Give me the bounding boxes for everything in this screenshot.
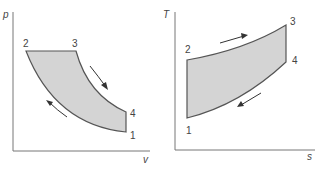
pv-point-4-label: 4 [130,108,136,119]
ts-arrow-heat-addition-icon [220,33,248,43]
pv-point-2-label: 2 [23,38,29,49]
ts-y-axis-label: T [163,9,170,20]
pv-point-1-label: 1 [130,130,136,141]
pv-cycle-area [26,51,126,132]
cycle-diagrams: p v 2 3 4 1 T s 2 3 4 1 [0,0,319,169]
ts-point-4-label: 4 [292,55,298,66]
ts-point-2-label: 2 [185,44,191,55]
pv-y-axis-label: p [2,9,9,20]
ts-point-1-label: 1 [186,125,192,136]
pv-x-axis-label: v [143,154,149,165]
ts-x-axis-label: s [307,151,312,162]
ts-cycle-area [187,25,286,118]
ts-diagram: T s 2 3 4 1 [163,9,315,162]
ts-point-3-label: 3 [290,16,296,27]
pv-diagram: p v 2 3 4 1 [2,9,150,165]
pv-point-3-label: 3 [72,38,78,49]
